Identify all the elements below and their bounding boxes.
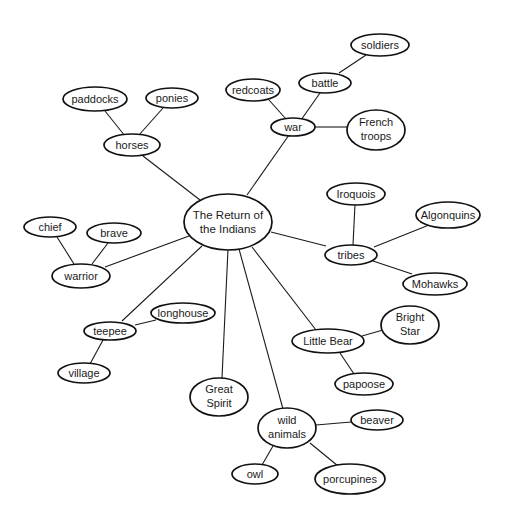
edge-horses-ponies bbox=[139, 108, 163, 135]
little-bear-label: Little Bear bbox=[303, 335, 353, 347]
node-warrior: warrior bbox=[52, 264, 110, 288]
algonquins-label: Algonquins bbox=[421, 209, 476, 221]
edge-center-horses bbox=[143, 156, 200, 200]
edge-little-bear-bright-star bbox=[362, 330, 383, 336]
concept-map: The Return of the Indians horses paddock… bbox=[0, 0, 511, 520]
war-label: war bbox=[283, 121, 302, 133]
node-longhouse: longhouse bbox=[151, 303, 215, 323]
tribes-label: tribes bbox=[338, 249, 365, 261]
ponies-label: ponies bbox=[156, 92, 189, 104]
node-chief: chief bbox=[24, 217, 76, 237]
node-teepee: teepee bbox=[84, 322, 136, 340]
node-beaver: beaver bbox=[351, 410, 403, 430]
node-wild-animals: wild animals bbox=[258, 408, 316, 448]
great-spirit-label-line1: Great bbox=[205, 383, 233, 395]
iroquois-label: Iroquois bbox=[336, 188, 376, 200]
edge-warrior-brave bbox=[92, 243, 108, 264]
great-spirit-label-line2: Spirit bbox=[206, 397, 231, 409]
edge-teepee-village bbox=[90, 340, 103, 364]
edge-center-wild-animals bbox=[239, 249, 283, 409]
porcupines-label: porcupines bbox=[323, 473, 377, 485]
edge-wild-animals-porcupines bbox=[310, 443, 338, 466]
village-label: village bbox=[68, 367, 99, 379]
edge-battle-soldiers bbox=[339, 55, 366, 73]
bright-star-label-line1: Bright bbox=[396, 311, 425, 323]
warrior-label: warrior bbox=[63, 270, 98, 282]
bright-star-label-line2: Star bbox=[400, 325, 421, 337]
paddocks-label: paddocks bbox=[71, 93, 119, 105]
center-label-line2: the Indians bbox=[200, 223, 257, 235]
horses-label: horses bbox=[115, 139, 149, 151]
center-label-line1: The Return of bbox=[193, 209, 264, 221]
edge-center-tribes bbox=[271, 232, 326, 246]
edge-wild-animals-beaver bbox=[316, 422, 351, 425]
wild-animals-label-line2: animals bbox=[268, 428, 306, 440]
edge-center-little-bear bbox=[252, 247, 316, 330]
longhouse-label: longhouse bbox=[158, 307, 209, 319]
edge-wild-animals-owl bbox=[262, 446, 273, 465]
edge-tribes-mohawks bbox=[373, 261, 412, 274]
beaver-label: beaver bbox=[360, 414, 394, 426]
owl-label: owl bbox=[247, 468, 264, 480]
edge-teepee-longhouse bbox=[135, 320, 156, 325]
edge-little-bear-papoose bbox=[340, 353, 354, 374]
mohawks-label: Mohawks bbox=[412, 278, 459, 290]
french-troops-label-line2: troops bbox=[361, 130, 392, 142]
edge-tribes-iroquois bbox=[353, 204, 355, 245]
teepee-label: teepee bbox=[93, 325, 127, 337]
node-war: war bbox=[271, 118, 315, 136]
chief-label: chief bbox=[38, 221, 62, 233]
edge-center-great-spirit bbox=[222, 249, 228, 378]
node-brave: brave bbox=[87, 223, 141, 243]
center-ellipse bbox=[184, 194, 272, 250]
node-battle: battle bbox=[299, 73, 351, 93]
french-troops-label-line1: French bbox=[359, 116, 393, 128]
soldiers-label: soldiers bbox=[361, 39, 399, 51]
wild-animals-label-line1: wild bbox=[277, 414, 297, 426]
brave-label: brave bbox=[100, 227, 128, 239]
node-center: The Return of the Indians bbox=[184, 194, 272, 250]
node-papoose: papoose bbox=[335, 373, 393, 395]
edge-tribes-algonquins bbox=[374, 225, 429, 247]
papoose-label: papoose bbox=[343, 378, 385, 390]
node-horses: horses bbox=[104, 134, 160, 156]
edge-horses-paddocks bbox=[105, 111, 125, 136]
node-mohawks: Mohawks bbox=[403, 273, 467, 295]
edge-war-battle bbox=[301, 93, 320, 120]
node-bright-star: Bright Star bbox=[381, 306, 439, 344]
node-algonquins: Algonquins bbox=[416, 202, 480, 228]
node-french-troops: French troops bbox=[347, 110, 405, 150]
edge-war-redcoats bbox=[269, 100, 286, 119]
redcoats-label: redcoats bbox=[232, 84, 275, 96]
node-paddocks: paddocks bbox=[63, 87, 127, 111]
node-great-spirit: Great Spirit bbox=[190, 378, 248, 416]
battle-label: battle bbox=[312, 77, 339, 89]
node-redcoats: redcoats bbox=[226, 79, 280, 101]
node-ponies: ponies bbox=[146, 88, 198, 108]
node-owl: owl bbox=[232, 464, 278, 484]
node-porcupines: porcupines bbox=[315, 464, 385, 494]
node-soldiers: soldiers bbox=[351, 34, 409, 56]
node-village: village bbox=[58, 363, 110, 383]
node-iroquois: Iroquois bbox=[327, 183, 385, 205]
edge-warrior-chief bbox=[57, 237, 74, 264]
node-tribes: tribes bbox=[325, 245, 377, 265]
edge-center-war bbox=[247, 135, 289, 195]
node-little-bear: Little Bear bbox=[292, 329, 364, 353]
